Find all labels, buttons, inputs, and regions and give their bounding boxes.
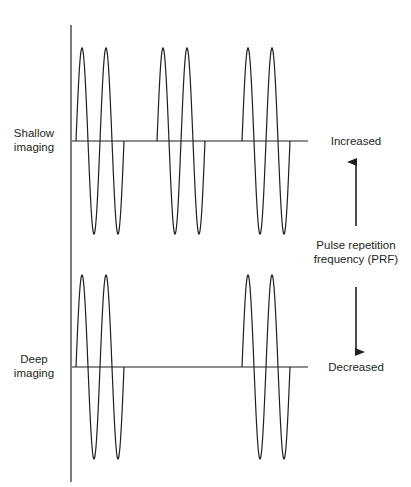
prf-label: Pulse repetition frequency (PRF)	[306, 238, 406, 266]
deep-imaging-label: Deep imaging	[4, 352, 64, 380]
shallow-imaging-label: Shallow imaging	[4, 126, 64, 154]
increased-label: Increased	[316, 134, 396, 148]
prf-label-line1: Pulse repetition	[306, 238, 406, 252]
shallow-label-line2: imaging	[4, 140, 64, 154]
prf-label-line2: frequency (PRF)	[306, 252, 406, 266]
deep-label-line1: Deep	[4, 352, 64, 366]
shallow-label-line1: Shallow	[4, 126, 64, 140]
waveform-traces	[72, 48, 308, 459]
deep-label-line2: imaging	[4, 366, 64, 380]
decreased-label: Decreased	[316, 360, 396, 374]
